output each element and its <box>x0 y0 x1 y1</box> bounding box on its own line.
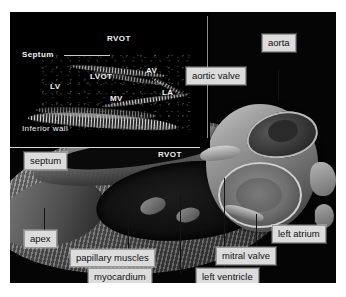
leader-papillary <box>128 188 129 256</box>
callout-septum[interactable]: septum <box>24 152 67 170</box>
callout-papillary-muscles[interactable]: papillary muscles <box>70 249 155 267</box>
echocardiogram-inset: RVOT Septum LVOT AV LV MV LA Inferior wa… <box>10 12 210 148</box>
echo-septum-pointer <box>64 55 110 56</box>
leader-myocardium <box>180 194 181 274</box>
callout-left-ventricle[interactable]: left ventricle <box>196 268 259 283</box>
vessel-stub-one <box>310 162 336 196</box>
echo-label-rvot: RVOT <box>107 34 131 43</box>
figure-panel: RVOT RVOT Septum LVOT AV LV MV LA Inferi… <box>10 12 336 283</box>
echo-label-la: LA <box>162 88 173 97</box>
leader-aorta <box>278 70 279 100</box>
callout-mitral-valve[interactable]: mitral valve <box>216 247 276 265</box>
callout-aorta[interactable]: aorta <box>262 34 296 52</box>
leader-mitral-valve <box>256 214 257 248</box>
echo-label-inferior-wall: Inferior wall <box>22 124 68 133</box>
callout-apex[interactable]: apex <box>24 230 57 248</box>
illustration-label-rvot: RVOT <box>158 150 182 159</box>
echo-label-lv: LV <box>50 82 60 91</box>
callout-aortic-valve[interactable]: aortic valve <box>186 67 246 85</box>
echo-label-septum: Septum <box>22 50 54 59</box>
echo-label-mv: MV <box>110 94 123 103</box>
echo-label-av: AV <box>146 66 157 75</box>
echo-inset-baseline <box>10 147 200 148</box>
callout-left-atrium[interactable]: left atrium <box>272 225 326 243</box>
callout-myocardium[interactable]: myocardium <box>88 268 152 283</box>
echo-label-lvot: LVOT <box>90 72 112 81</box>
